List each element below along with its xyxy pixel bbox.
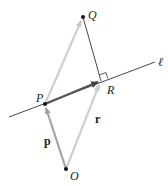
label-p: P: [36, 92, 43, 104]
label-vector-p: p: [44, 135, 51, 147]
label-o: O: [70, 170, 79, 182]
label-r: R: [107, 84, 114, 96]
label-vector-r: r: [95, 113, 100, 125]
label-line-l: ℓ: [158, 56, 163, 68]
vector-r: [66, 85, 99, 169]
segment-qr: [83, 17, 101, 81]
point-q: [81, 15, 85, 19]
point-p: [43, 102, 47, 106]
diagram-canvas: [0, 0, 168, 186]
right-angle-marker: [99, 73, 107, 79]
point-o: [64, 167, 68, 171]
label-q: Q: [88, 9, 97, 21]
